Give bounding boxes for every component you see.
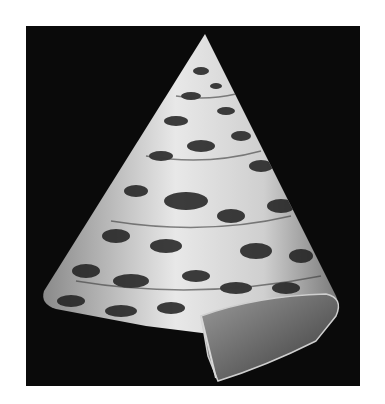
- photo-frame: [26, 26, 360, 386]
- shell-illustration: [26, 26, 360, 386]
